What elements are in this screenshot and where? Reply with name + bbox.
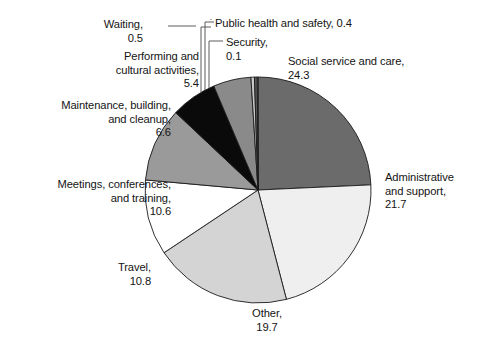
slice-label-other: Other, 19.7 [222, 307, 312, 334]
pie-chart: Waiting, 0.5 Public health and safety, 0… [0, 0, 481, 355]
slice-label-performing-and-cultural-activities: Performing and cultural activities, 5.4 [59, 50, 199, 91]
slice-label-administrative-and-support: Administrative and support, 21.7 [385, 171, 481, 212]
slice-label-travel: Travel, 10.8 [51, 261, 151, 288]
slice-label-waiting: Waiting, 0.5 [51, 18, 143, 45]
pie-slices-group [145, 77, 371, 303]
slice-label-meetings-conferences-and-training: Meetings, conferences, and training, 10.… [11, 178, 171, 219]
slice-label-maintenance-building-and-cleanup: Maintenance, building, and cleanup, 6.6 [21, 99, 171, 140]
pie-slice-social-service-and-care[interactable] [258, 77, 371, 190]
slice-label-public-health-and-safety: Public health and safety, 0.4 [215, 17, 415, 31]
slice-label-social-service-and-care: Social service and care, 24.3 [288, 55, 438, 82]
